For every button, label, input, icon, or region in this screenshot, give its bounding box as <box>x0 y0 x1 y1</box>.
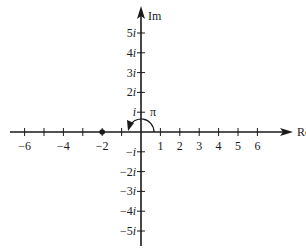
imaginary-axis-label: Im <box>148 9 162 23</box>
imaginary-tick: 2i <box>127 85 145 99</box>
real-tick-label: 6 <box>254 139 260 153</box>
imaginary-tick-label: 2i <box>127 85 136 99</box>
real-axis-label: Re <box>297 125 306 139</box>
imaginary-tick: 3i <box>127 66 145 80</box>
imaginary-tick-label: 5i <box>127 26 136 40</box>
imaginary-tick-label: 3i <box>127 66 136 80</box>
imaginary-tick: 5i <box>127 26 145 40</box>
real-tick-label: −4 <box>57 139 70 153</box>
real-tick-label: 4 <box>216 139 222 153</box>
imaginary-tick: −i <box>126 145 145 159</box>
imaginary-tick: i <box>133 105 145 119</box>
complex-plane-diagram: Re Im −6−4−2123456 5i4i3i2ii−i−2i−3i−4i−… <box>0 0 306 251</box>
real-tick-label: 1 <box>157 139 163 153</box>
real-tick-label: −2 <box>96 139 109 153</box>
real-tick-label: 2 <box>177 139 183 153</box>
angle-label: π <box>150 105 156 119</box>
imaginary-tick-label: −3i <box>120 184 136 198</box>
point-minus-two <box>99 129 105 135</box>
axes: Re Im <box>10 6 306 246</box>
imaginary-tick-label: −4i <box>120 204 136 218</box>
imaginary-tick-label: −5i <box>120 224 136 238</box>
imaginary-tick-label: −2i <box>120 165 136 179</box>
imaginary-tick: 4i <box>127 46 145 60</box>
real-tick-label: 5 <box>235 139 241 153</box>
imaginary-tick-label: 4i <box>127 46 136 60</box>
imaginary-tick-label: −i <box>126 145 136 159</box>
real-tick-label: 3 <box>196 139 202 153</box>
real-tick-label: −6 <box>18 139 31 153</box>
imaginary-tick-label: i <box>133 105 136 119</box>
